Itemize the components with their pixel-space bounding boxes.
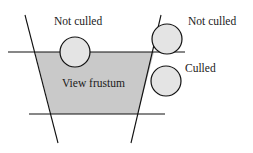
frustum-label: View frustum bbox=[62, 78, 125, 90]
frustum-culling-diagram: View frustum Not culled Not culled Culle… bbox=[0, 0, 253, 153]
label-not-culled-top: Not culled bbox=[54, 16, 102, 28]
sphere-top-circle bbox=[60, 37, 90, 67]
label-culled: Culled bbox=[185, 63, 216, 75]
sphere-right-circle bbox=[151, 66, 181, 96]
label-not-culled-right: Not culled bbox=[188, 16, 236, 28]
sphere-right-top-circle bbox=[152, 24, 182, 54]
